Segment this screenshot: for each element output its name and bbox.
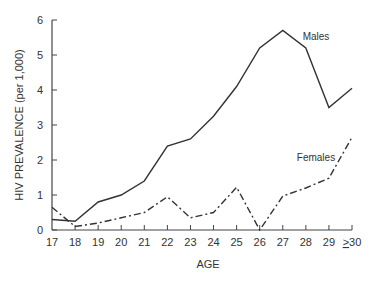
females-label: Females: [297, 152, 335, 163]
x-tick-label: 22: [161, 236, 173, 248]
males-line: [52, 31, 352, 222]
x-axis-title: AGE: [196, 258, 219, 270]
y-tick-label: 2: [37, 154, 43, 166]
x-tick-label: 20: [115, 236, 127, 248]
y-tick-label: 0: [37, 224, 43, 236]
males-label: Males: [303, 31, 330, 42]
x-tick-label: >30: [343, 236, 362, 248]
series-lines: [52, 31, 352, 231]
x-tick-label: 25: [230, 236, 242, 248]
x-tick-label: 27: [277, 236, 289, 248]
x-tick-label: 29: [323, 236, 335, 248]
y-tick-label: 3: [37, 119, 43, 131]
y-tick-label: 4: [37, 84, 43, 96]
hiv-prevalence-chart: 012345617181920212223242526272829>30 Mal…: [0, 0, 369, 281]
x-tick-label: 21: [138, 236, 150, 248]
y-tick-label: 5: [37, 49, 43, 61]
x-tick-label: 23: [184, 236, 196, 248]
x-tick-label: 17: [46, 236, 58, 248]
y-axis-title: HIV PREVALENCE (per 1,000): [13, 49, 25, 200]
x-tick-label: 24: [207, 236, 219, 248]
x-tick-label: 18: [69, 236, 81, 248]
x-tick-label: 28: [300, 236, 312, 248]
chart-canvas: 012345617181920212223242526272829>30 Mal…: [0, 0, 369, 281]
y-tick-label: 1: [37, 189, 43, 201]
y-tick-label: 6: [37, 14, 43, 26]
x-tick-label: 26: [254, 236, 266, 248]
x-tick-label: 19: [92, 236, 104, 248]
